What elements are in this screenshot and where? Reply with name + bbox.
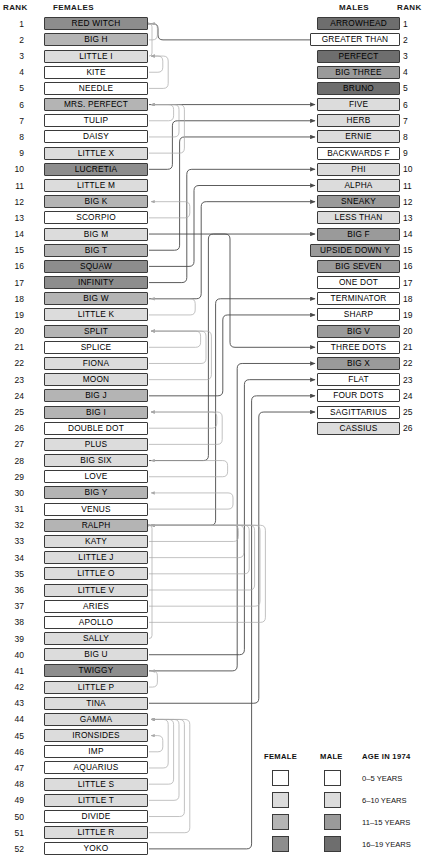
female-rank: 5	[6, 81, 24, 95]
female-name-box[interactable]: SPLICE	[44, 341, 148, 354]
female-name-box[interactable]: LOVE	[44, 470, 148, 483]
male-name-box[interactable]: SAGITTARIUS	[317, 406, 400, 419]
female-name-box[interactable]: LITTLE T	[44, 794, 148, 807]
legend-age-label: 0–5 YEARS	[362, 774, 402, 783]
female-name-box[interactable]: PLUS	[44, 438, 148, 451]
female-name-box[interactable]: TWIGGY	[44, 664, 148, 677]
male-name-box[interactable]: CASSIUS	[317, 422, 400, 435]
female-name-box[interactable]: LITTLE K	[44, 308, 148, 321]
connection-arrow	[149, 24, 315, 40]
male-rank: 19	[403, 308, 419, 322]
male-name-box[interactable]: PHI	[317, 163, 400, 176]
male-name-box[interactable]: BRUNO	[317, 82, 400, 95]
female-rank: 50	[6, 810, 24, 824]
female-name-box[interactable]: MRS. PERFECT	[44, 98, 148, 111]
male-name-box[interactable]: BIG SEVEN	[317, 260, 400, 273]
male-rank: 21	[403, 340, 419, 354]
female-name-box[interactable]: KATY	[44, 535, 148, 548]
female-name-box[interactable]: LITTLE S	[44, 778, 148, 791]
female-name-box[interactable]: LUCRETIA	[44, 163, 148, 176]
male-name-box[interactable]: UPSIDE DOWN Y	[310, 244, 400, 257]
male-rank: 24	[403, 389, 419, 403]
connection-arrow	[149, 202, 190, 218]
female-name-box[interactable]: LITTLE V	[44, 584, 148, 597]
female-name-box[interactable]: GAMMA	[44, 713, 148, 726]
legend-age-label: 6–10 YEARS	[362, 796, 407, 805]
female-rank: 6	[6, 98, 24, 112]
female-name-box[interactable]: ARIES	[44, 600, 148, 613]
male-name-box[interactable]: PERFECT	[317, 50, 400, 63]
male-name-box[interactable]: BIG X	[317, 357, 400, 370]
female-name-box[interactable]: DIVIDE	[44, 810, 148, 823]
female-rank: 32	[6, 518, 24, 532]
female-name-box[interactable]: SALLY	[44, 632, 148, 645]
female-name-box[interactable]: BIG M	[44, 228, 148, 241]
female-name-box[interactable]: MOON	[44, 373, 148, 386]
female-name-box[interactable]: LITTLE R	[44, 826, 148, 839]
female-name-box[interactable]: KITE	[44, 66, 148, 79]
female-rank: 48	[6, 777, 24, 791]
female-name-box[interactable]: LITTLE P	[44, 681, 148, 694]
male-name-box[interactable]: ARROWHEAD	[317, 17, 400, 30]
female-name-box[interactable]: BIG SIX	[44, 454, 148, 467]
female-name-box[interactable]: LITTLE M	[44, 179, 148, 192]
male-name-box[interactable]: ALPHA	[317, 179, 400, 192]
female-name-box[interactable]: IMP	[44, 745, 148, 758]
male-name-box[interactable]: BIG THREE	[317, 66, 400, 79]
female-rank: 46	[6, 745, 24, 759]
female-name-box[interactable]: NEEDLE	[44, 82, 148, 95]
female-name-box[interactable]: DOUBLE DOT	[44, 422, 148, 435]
connection-arrow	[149, 736, 163, 752]
female-name-box[interactable]: IRONSIDES	[44, 729, 148, 742]
female-name-box[interactable]: RALPH	[44, 519, 148, 532]
female-name-box[interactable]: LITTLE J	[44, 551, 148, 564]
female-name-box[interactable]: LITTLE O	[44, 567, 148, 580]
male-name-box[interactable]: SHARP	[317, 308, 400, 321]
legend-female-swatch	[272, 770, 289, 786]
female-name-box[interactable]: BIG J	[44, 389, 148, 402]
male-name-box[interactable]: BIG V	[317, 325, 400, 338]
male-rank: 9	[403, 146, 419, 160]
female-name-box[interactable]: FIONA	[44, 357, 148, 370]
female-name-box[interactable]: BIG Y	[44, 486, 148, 499]
connection-arrow	[149, 719, 179, 800]
male-name-box[interactable]: ONE DOT	[317, 276, 400, 289]
female-name-box[interactable]: DAISY	[44, 130, 148, 143]
female-name-box[interactable]: AQUARIUS	[44, 761, 148, 774]
male-name-box[interactable]: BIG F	[317, 228, 400, 241]
male-name-box[interactable]: SNEAKY	[317, 195, 400, 208]
male-name-box[interactable]: FOUR DOTS	[317, 389, 400, 402]
male-name-box[interactable]: THREE DOTS	[317, 341, 400, 354]
female-name-box[interactable]: BIG I	[44, 406, 148, 419]
female-name-box[interactable]: RED WITCH	[44, 17, 148, 30]
female-name-box[interactable]: SQUAW	[44, 260, 148, 273]
female-name-box[interactable]: TINA	[44, 697, 148, 710]
male-name-box[interactable]: HERB	[317, 114, 400, 127]
male-name-box[interactable]: BACKWARDS F	[317, 147, 400, 160]
female-name-box[interactable]: BIG W	[44, 292, 148, 305]
female-name-box[interactable]: INFINITY	[44, 276, 148, 289]
connection-arrow	[149, 493, 233, 509]
female-rank: 24	[6, 389, 24, 403]
female-name-box[interactable]: LITTLE X	[44, 147, 148, 160]
female-name-box[interactable]: VENUS	[44, 503, 148, 516]
male-name-box[interactable]: LESS THAN	[317, 211, 400, 224]
male-name-box[interactable]: ERNIE	[317, 130, 400, 143]
female-rank: 18	[6, 292, 24, 306]
female-name-box[interactable]: BIG U	[44, 648, 148, 661]
female-name-box[interactable]: SCORPIO	[44, 211, 148, 224]
female-name-box[interactable]: BIG K	[44, 195, 148, 208]
female-name-box[interactable]: BIG H	[44, 33, 148, 46]
female-name-box[interactable]: BIG T	[44, 244, 148, 257]
male-name-box[interactable]: TERMINATOR	[317, 292, 400, 305]
female-name-box[interactable]: TULIP	[44, 114, 148, 127]
male-name-box[interactable]: GREATER THAN	[310, 33, 400, 46]
male-name-box[interactable]: FIVE	[317, 98, 400, 111]
female-name-box[interactable]: APOLLO	[44, 616, 148, 629]
female-rank: 47	[6, 761, 24, 775]
female-name-box[interactable]: YOKO	[44, 842, 148, 855]
female-rank: 36	[6, 583, 24, 597]
female-name-box[interactable]: SPLIT	[44, 325, 148, 338]
male-name-box[interactable]: FLAT	[317, 373, 400, 386]
female-name-box[interactable]: LITTLE I	[44, 50, 148, 63]
